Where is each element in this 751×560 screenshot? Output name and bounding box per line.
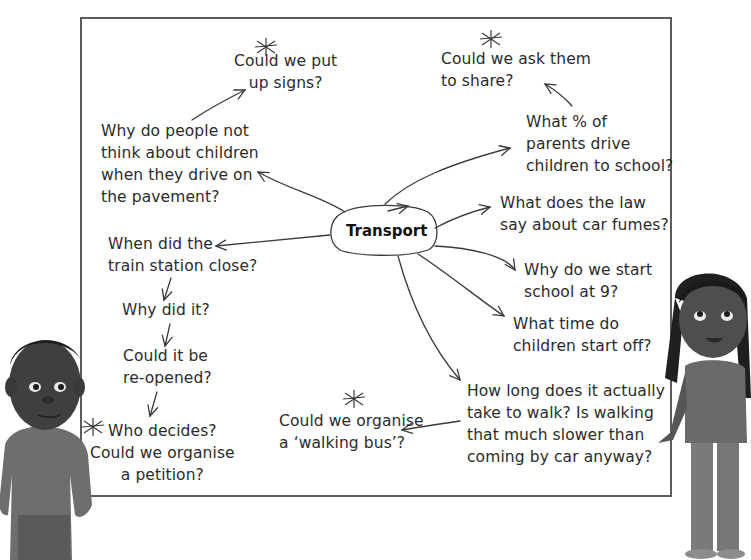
boy-character: [0, 325, 95, 560]
node-walking-bus: Could we organise a ‘walking bus’?: [279, 410, 424, 454]
node-walk: How long does it actually take to walk? …: [467, 380, 665, 468]
star-icon: [343, 390, 365, 408]
girl-character: [655, 258, 751, 560]
node-law: What does the law say about car fumes?: [500, 192, 669, 236]
node-decides: Who decides? Could we organise a petitio…: [90, 420, 235, 486]
node-why-did: Why did it?: [122, 299, 210, 321]
node-percent: What % of parents drive children to scho…: [526, 111, 673, 177]
node-start9: Why do we start school at 9?: [524, 259, 652, 303]
node-reopen: Could it be re-opened?: [123, 345, 212, 389]
node-share: Could we ask them to share?: [441, 48, 591, 92]
central-topic: Transport: [346, 222, 427, 240]
node-start-off: What time do children start off?: [513, 313, 652, 357]
node-pavement: Why do people not think about children w…: [101, 120, 259, 208]
node-train: When did the train station close?: [108, 233, 257, 277]
node-signs: Could we put up signs?: [234, 50, 337, 94]
star-icon: [480, 30, 502, 48]
